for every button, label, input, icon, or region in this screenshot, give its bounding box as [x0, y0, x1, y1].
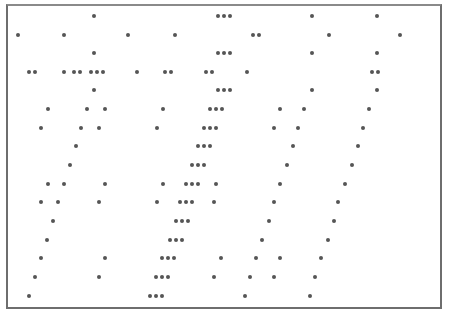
- asterisk-glyph: [210, 70, 214, 74]
- asterisk-glyph: [310, 51, 314, 55]
- asterisk-glyph: [74, 144, 78, 148]
- asterisk-glyph: [27, 294, 31, 298]
- asterisk-glyph: [332, 219, 336, 223]
- asterisk-glyph: [155, 126, 159, 130]
- asterisk-glyph: [202, 163, 206, 167]
- asterisk-glyph: [272, 275, 276, 279]
- asterisk-glyph: [174, 238, 178, 242]
- asterisk-glyph: [204, 70, 208, 74]
- asterisk-glyph: [296, 126, 300, 130]
- asterisk-glyph: [135, 70, 139, 74]
- asterisk-glyph: [180, 219, 184, 223]
- asterisk-glyph: [219, 256, 223, 260]
- asterisk-glyph: [79, 126, 83, 130]
- asterisk-glyph: [257, 33, 261, 37]
- asterisk-glyph: [285, 163, 289, 167]
- asterisk-glyph: [228, 14, 232, 18]
- asterisk-glyph: [202, 144, 206, 148]
- asterisk-glyph: [155, 200, 159, 204]
- asterisk-glyph: [216, 14, 220, 18]
- asterisk-glyph: [169, 70, 173, 74]
- asterisk-glyph: [97, 275, 101, 279]
- asterisk-glyph: [272, 200, 276, 204]
- asterisk-glyph: [319, 256, 323, 260]
- asterisk-glyph: [97, 126, 101, 130]
- asterisk-glyph: [95, 70, 99, 74]
- asterisk-glyph: [103, 107, 107, 111]
- asterisk-glyph: [208, 107, 212, 111]
- asterisk-glyph: [291, 144, 295, 148]
- asterisk-glyph: [51, 219, 55, 223]
- asterisk-glyph: [343, 182, 347, 186]
- asterisk-glyph: [46, 107, 50, 111]
- asterisk-glyph: [190, 163, 194, 167]
- asterisk-glyph: [172, 256, 176, 260]
- asterisk-glyph: [190, 200, 194, 204]
- asterisk-glyph: [202, 126, 206, 130]
- asterisk-glyph: [160, 256, 164, 260]
- asterisk-glyph: [161, 182, 165, 186]
- asterisk-glyph: [196, 163, 200, 167]
- asterisk-glyph: [166, 275, 170, 279]
- asterisk-glyph: [228, 88, 232, 92]
- asterisk-glyph: [216, 88, 220, 92]
- asterisk-glyph: [370, 70, 374, 74]
- asterisk-glyph: [222, 14, 226, 18]
- asterisk-glyph: [196, 144, 200, 148]
- asterisk-glyph: [92, 14, 96, 18]
- asterisk-glyph: [178, 200, 182, 204]
- asterisk-glyph: [278, 107, 282, 111]
- asterisk-glyph: [208, 126, 212, 130]
- asterisk-glyph: [212, 200, 216, 204]
- asterisk-glyph: [398, 33, 402, 37]
- asterisk-glyph: [78, 70, 82, 74]
- asterisk-glyph: [184, 182, 188, 186]
- asterisk-glyph: [68, 163, 72, 167]
- asterisk-glyph: [245, 70, 249, 74]
- asterisk-glyph: [101, 70, 105, 74]
- asterisk-glyph: [103, 256, 107, 260]
- asterisk-glyph: [39, 200, 43, 204]
- asterisk-glyph: [33, 70, 37, 74]
- asterisk-glyph: [62, 70, 66, 74]
- asterisk-glyph: [228, 51, 232, 55]
- asterisk-glyph: [302, 107, 306, 111]
- asterisk-glyph: [243, 294, 247, 298]
- asterisk-glyph: [126, 33, 130, 37]
- asterisk-glyph: [173, 33, 177, 37]
- asterisk-glyph: [163, 70, 167, 74]
- asterisk-glyph: [350, 163, 354, 167]
- asterisk-glyph: [62, 33, 66, 37]
- asterisk-glyph: [222, 88, 226, 92]
- asterisk-glyph: [254, 256, 258, 260]
- asterisk-glyph: [148, 294, 152, 298]
- asterisk-glyph: [184, 200, 188, 204]
- asterisk-glyph: [376, 70, 380, 74]
- asterisk-glyph: [308, 294, 312, 298]
- asterisk-glyph: [154, 294, 158, 298]
- asterisk-glyph: [166, 256, 170, 260]
- asterisk-glyph: [367, 107, 371, 111]
- asterisk-glyph: [260, 238, 264, 242]
- asterisk-glyph: [361, 126, 365, 130]
- asterisk-glyph: [168, 238, 172, 242]
- asterisk-glyph: [16, 33, 20, 37]
- asterisk-glyph: [212, 275, 216, 279]
- asterisk-glyph: [375, 14, 379, 18]
- asterisk-glyph: [174, 219, 178, 223]
- pattern-frame: [6, 4, 442, 309]
- asterisk-glyph: [39, 126, 43, 130]
- asterisk-glyph: [62, 182, 66, 186]
- asterisk-glyph: [313, 275, 317, 279]
- asterisk-glyph: [97, 200, 101, 204]
- asterisk-glyph: [196, 182, 200, 186]
- asterisk-glyph: [272, 126, 276, 130]
- asterisk-glyph: [327, 33, 331, 37]
- asterisk-glyph: [222, 51, 226, 55]
- asterisk-glyph: [310, 88, 314, 92]
- asterisk-glyph: [375, 88, 379, 92]
- asterisk-glyph: [214, 126, 218, 130]
- asterisk-glyph: [72, 70, 76, 74]
- asterisk-glyph: [92, 88, 96, 92]
- asterisk-glyph: [89, 70, 93, 74]
